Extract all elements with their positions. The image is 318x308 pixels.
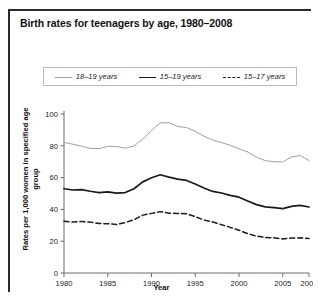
y-tick-label: 60 (50, 173, 58, 182)
y-tick-label: 80 (50, 142, 58, 151)
x-tick-label: 1980 (56, 279, 73, 288)
legend-dashed-line-swatch-icon (223, 73, 240, 80)
y-tick-label: 0 (54, 269, 58, 278)
y-tick-label: 40 (50, 205, 58, 214)
legend-item-15-19: 15–19 years (139, 72, 201, 81)
line-chart-svg: 0204060801001980198519901995200020052008 (10, 93, 313, 294)
legend-label: 15–19 years (160, 72, 201, 81)
series-line (64, 212, 309, 239)
legend-label: 18–19 years (76, 72, 117, 81)
x-tick-label: 1995 (187, 279, 204, 288)
y-tick-label: 20 (50, 237, 58, 246)
figure-frame: Birth rates for teenagers by age, 1980–2… (8, 9, 311, 292)
x-tick-label: 2000 (231, 279, 248, 288)
chart-legend: 18–19 years 15–19 years 15–17 years (43, 67, 297, 86)
plot-area: Rates per 1,000 women in specified age g… (10, 93, 313, 294)
series-line (64, 123, 309, 162)
x-tick-label: 2005 (274, 279, 291, 288)
y-tick-label: 100 (45, 110, 58, 119)
legend-line-swatch-icon (55, 73, 72, 80)
x-tick-label: 2008 (301, 279, 313, 288)
series-line (64, 175, 309, 209)
legend-item-15-17: 15–17 years (223, 72, 285, 81)
x-tick-label: 1990 (143, 279, 160, 288)
chart-title: Birth rates for teenagers by age, 1980–2… (20, 17, 232, 29)
legend-item-18-19: 18–19 years (55, 72, 117, 81)
legend-label: 15–17 years (244, 72, 285, 81)
x-tick-label: 1985 (99, 279, 116, 288)
legend-line-swatch-icon (139, 73, 156, 80)
